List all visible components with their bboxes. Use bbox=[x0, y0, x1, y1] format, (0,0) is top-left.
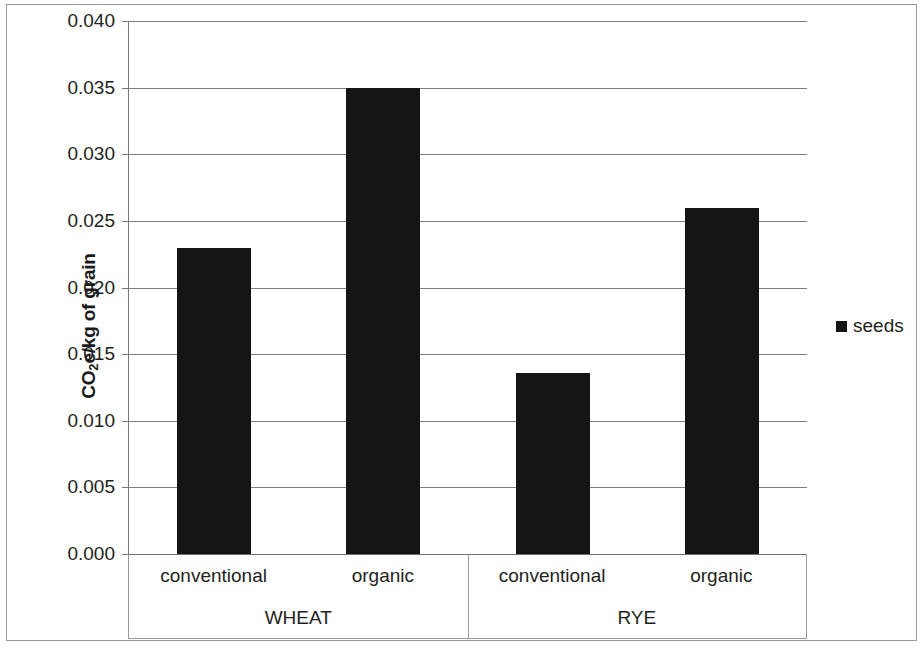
y-axis-tick-label: 0.040 bbox=[67, 10, 115, 32]
bar bbox=[177, 248, 251, 554]
category-label-conventional: conventional bbox=[129, 554, 298, 597]
y-axis-tick-label: 0.035 bbox=[67, 77, 115, 99]
bar bbox=[685, 208, 759, 554]
legend-label-seeds: seeds bbox=[853, 315, 904, 337]
legend-swatch-icon bbox=[836, 321, 847, 332]
group-label-RYE: RYE bbox=[468, 597, 807, 639]
gridline bbox=[129, 88, 807, 89]
y-axis-title-post: e/kg of grain bbox=[78, 253, 99, 363]
bar bbox=[516, 373, 590, 554]
category-label-organic: organic bbox=[637, 554, 806, 597]
y-axis-tick-label: 0.010 bbox=[67, 410, 115, 432]
bar-chart-figure: 0.0400.0350.0300.0250.0200.0150.0100.005… bbox=[0, 0, 924, 651]
group-label-WHEAT: WHEAT bbox=[129, 597, 468, 639]
category-axis: conventionalorganicconventionalorganic W… bbox=[129, 554, 807, 639]
gridline bbox=[129, 21, 807, 22]
legend: seeds bbox=[836, 315, 904, 337]
y-axis-tick-label: 0.030 bbox=[67, 143, 115, 165]
bar bbox=[346, 88, 420, 554]
y-axis-tick-label: 0.025 bbox=[67, 210, 115, 232]
y-axis-tick-label: 0.005 bbox=[67, 476, 115, 498]
category-group-separator bbox=[468, 554, 469, 639]
y-axis-title-pre: CO bbox=[78, 370, 99, 398]
plot-area bbox=[129, 21, 807, 554]
category-label-conventional: conventional bbox=[468, 554, 637, 597]
y-axis-title: CO2e/kg of grain bbox=[78, 253, 100, 399]
category-label-organic: organic bbox=[298, 554, 467, 597]
y-axis-tick-label: 0.000 bbox=[67, 543, 115, 565]
gridline bbox=[129, 154, 807, 155]
y-axis-title-subscript: 2 bbox=[86, 363, 101, 370]
